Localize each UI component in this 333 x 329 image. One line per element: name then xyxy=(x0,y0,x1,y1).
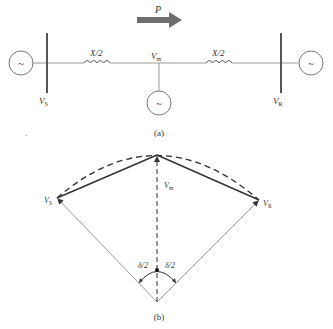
svg-text:~: ~ xyxy=(308,57,314,69)
svg-text:~: ~ xyxy=(18,57,24,69)
vr-phasor-label: VR xyxy=(263,199,272,209)
vs-phasor xyxy=(58,199,157,302)
right-reactance-label: X/2 xyxy=(211,48,225,58)
angle-center-dot xyxy=(155,268,159,272)
receiving-generator-icon: ~ xyxy=(299,51,323,75)
vm-phasor-label: Vm xyxy=(164,181,174,191)
caption-a: (a) xyxy=(154,128,164,138)
right-inductor-icon xyxy=(206,61,232,64)
svg-text:~: ~ xyxy=(156,97,162,109)
midpoint-label: Vm xyxy=(151,51,162,62)
figure-a: P X/2 X/2 VS VR ~ ~ Vm ~ xyxy=(9,4,323,138)
sending-bus-label: VS xyxy=(39,96,48,107)
left-angle-label: δ/2 xyxy=(138,261,148,270)
vs-phasor-label: VS xyxy=(44,196,52,206)
vm-to-vr-chord xyxy=(157,155,259,200)
figure-b: VS VR Vm δ/2 δ/2 (b) xyxy=(44,155,272,322)
left-reactance-label: X/2 xyxy=(89,48,103,58)
vr-phasor xyxy=(157,201,258,302)
vs-to-vm-chord xyxy=(57,155,157,198)
voltage-locus-arc xyxy=(57,155,259,200)
phasor-diagram: P X/2 X/2 VS VR ~ ~ Vm ~ xyxy=(0,0,333,329)
receiving-bus-label: VR xyxy=(273,96,283,107)
midpoint-compensator-icon: ~ xyxy=(147,91,171,115)
stray-mark: . xyxy=(25,129,27,138)
power-flow-label: P xyxy=(154,4,161,15)
right-angle-label: δ/2 xyxy=(165,261,175,270)
caption-b: (b) xyxy=(154,312,165,322)
left-inductor-icon xyxy=(84,61,110,64)
sending-generator-icon: ~ xyxy=(9,51,33,75)
